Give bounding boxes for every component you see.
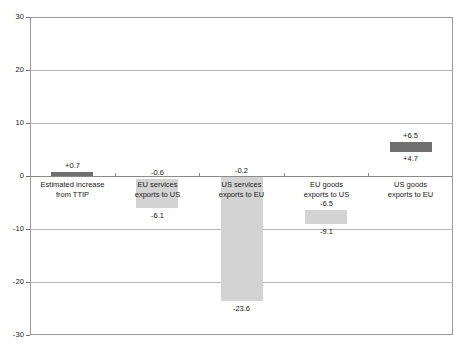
category-label: US goodsexports to EU (368, 180, 453, 199)
x-tick-mark (284, 173, 285, 177)
y-tick-label: -30 (0, 331, 24, 339)
bar-value-label-top: -0.2 (199, 166, 284, 175)
bar-value-label-top: +0.7 (30, 161, 115, 170)
bar (390, 142, 432, 152)
y-tick-mark (26, 335, 30, 336)
y-tick-label: -20 (0, 278, 24, 286)
bar-value-label-top: -6.5 (284, 199, 369, 208)
y-tick-mark (26, 17, 30, 18)
category-label: US servicesexports to EU (199, 180, 284, 199)
category-label-line: EU goods (284, 180, 369, 190)
bar-value-label-bottom: -23.6 (199, 304, 284, 313)
category-label-line: US services (199, 180, 284, 190)
y-tick-mark (26, 229, 30, 230)
y-tick-label: -10 (0, 225, 24, 233)
x-tick-mark (368, 173, 369, 177)
bar-value-label-top: +6.5 (368, 131, 453, 140)
category-label-line: US goods (368, 180, 453, 190)
category-label-line: from TTIP (30, 190, 115, 200)
gridline (30, 70, 453, 71)
y-tick-label: 30 (0, 13, 24, 21)
bar (51, 172, 93, 176)
y-tick-mark (26, 123, 30, 124)
category-label-line: exports to EU (368, 190, 453, 200)
bar (305, 210, 347, 224)
y-tick-mark (26, 176, 30, 177)
bar-value-label-top: -0.6 (115, 168, 200, 177)
y-tick-label: 10 (0, 119, 24, 127)
category-label-line: exports to US (115, 190, 200, 200)
category-label: EU servicesexports to US (115, 180, 200, 199)
category-label-line: Estimated increase (30, 180, 115, 190)
bar-value-label-bottom: -9.1 (284, 227, 369, 236)
y-tick-mark (26, 282, 30, 283)
bar-value-label-bottom: -6.1 (115, 211, 200, 220)
category-label-line: exports to EU (199, 190, 284, 200)
category-label-line: exports to US (284, 190, 369, 200)
category-label: Estimated increasefrom TTIP (30, 180, 115, 199)
chart-container: 3020100-10-20-30 +0.7-0.6-6.1-0.2-23.6-6… (0, 0, 458, 351)
category-label: EU goodsexports to US (284, 180, 369, 199)
y-tick-label: 20 (0, 66, 24, 74)
y-tick-mark (26, 70, 30, 71)
category-label-line: EU services (115, 180, 200, 190)
bar-value-label-bottom: +4.7 (368, 154, 453, 163)
y-tick-label: 0 (0, 172, 24, 180)
gridline (30, 123, 453, 124)
